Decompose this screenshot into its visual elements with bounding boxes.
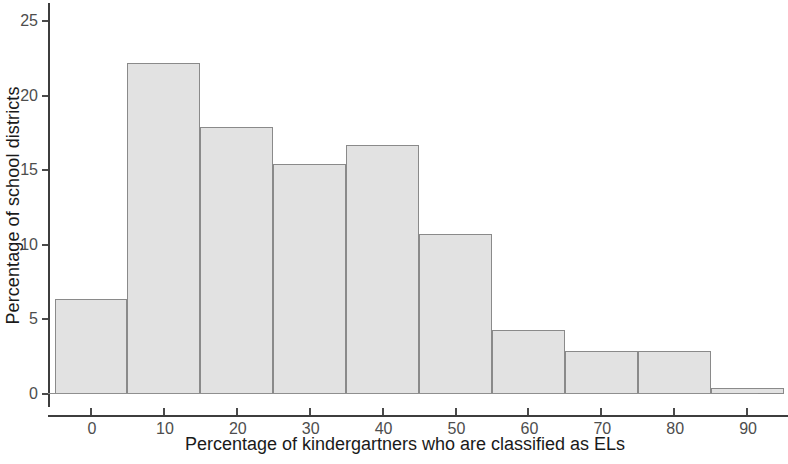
y-tick-mark bbox=[42, 95, 48, 97]
histogram-bar bbox=[55, 299, 128, 394]
y-axis-title: Percentage of school districts bbox=[0, 0, 26, 410]
histogram-bar bbox=[419, 234, 492, 394]
x-tick-mark bbox=[600, 408, 602, 415]
y-tick-label: 25 bbox=[0, 13, 38, 29]
x-axis-title: Percentage of kindergartners who are cla… bbox=[55, 434, 755, 455]
histogram-bar bbox=[492, 330, 565, 394]
x-tick-mark bbox=[527, 408, 529, 415]
x-tick-mark bbox=[455, 408, 457, 415]
y-tick-label: 0 bbox=[0, 386, 38, 402]
y-axis-title-text: Percentage of school districts bbox=[3, 86, 24, 324]
histogram-chart: Percentage of school districts 051015202… bbox=[0, 0, 788, 464]
x-tick-mark bbox=[382, 408, 384, 415]
y-tick-label: 15 bbox=[0, 162, 38, 178]
x-tick-mark bbox=[90, 408, 92, 415]
y-tick-label: 5 bbox=[0, 311, 38, 327]
y-tick-mark bbox=[42, 20, 48, 22]
histogram-bar bbox=[638, 351, 711, 394]
baseline bbox=[48, 393, 758, 394]
y-tick-mark bbox=[42, 169, 48, 171]
y-tick-label: 10 bbox=[0, 237, 38, 253]
x-tick-mark bbox=[236, 408, 238, 415]
y-tick-label: 20 bbox=[0, 88, 38, 104]
y-axis-line bbox=[48, 3, 50, 407]
x-tick-mark bbox=[163, 408, 165, 415]
histogram-bar bbox=[565, 351, 638, 394]
y-tick-mark bbox=[42, 318, 48, 320]
histogram-bar bbox=[127, 63, 200, 394]
histogram-bar bbox=[200, 127, 273, 394]
y-tick-mark bbox=[42, 244, 48, 246]
x-tick-mark bbox=[673, 408, 675, 415]
x-axis-line bbox=[48, 415, 788, 417]
x-tick-mark bbox=[309, 408, 311, 415]
histogram-bar bbox=[346, 145, 419, 394]
histogram-bar bbox=[273, 164, 346, 394]
x-tick-mark bbox=[746, 408, 748, 415]
